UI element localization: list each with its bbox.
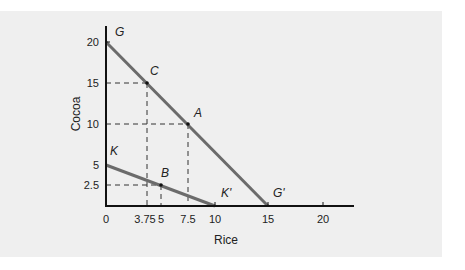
label-k: K: [110, 144, 119, 158]
point-a: [186, 122, 190, 126]
guide-lines: [106, 83, 188, 206]
x-tick: 15: [262, 213, 274, 225]
x-tick: 0: [103, 213, 109, 225]
point-b: [159, 183, 163, 187]
label-b: B: [161, 166, 169, 180]
point-c: [145, 81, 149, 85]
label-g-prime: G': [273, 186, 285, 200]
y-axis-label: Cocoa: [69, 96, 83, 131]
y-tick: 10: [87, 118, 99, 130]
label-k-prime: K': [221, 186, 232, 200]
x-tick: 20: [317, 213, 329, 225]
y-tick: 5: [93, 159, 99, 171]
label-a: A: [193, 106, 202, 120]
label-c: C: [150, 64, 159, 78]
y-tick: 15: [87, 77, 99, 89]
x-tick: 10: [209, 213, 221, 225]
x-tick: 7.5: [180, 213, 195, 225]
y-tick: 2.5: [84, 179, 99, 191]
ppf-chart: 20 15 10 5 2.5 0 3.75 5 7.5 10 15 20 Ric…: [0, 0, 465, 270]
x-tick: 3.75: [134, 213, 155, 225]
label-g: G: [115, 25, 124, 39]
x-tick: 5: [158, 213, 164, 225]
y-tick: 20: [87, 36, 99, 48]
x-axis-label: Rice: [214, 233, 238, 247]
